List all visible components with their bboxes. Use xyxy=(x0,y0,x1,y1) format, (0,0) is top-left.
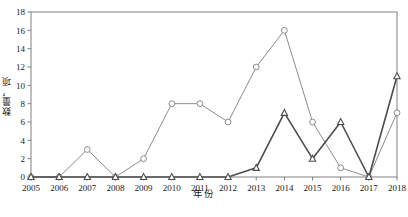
data-point-circle xyxy=(84,147,90,153)
y-tick-label: 2 xyxy=(21,154,26,164)
y-tick-label: 12 xyxy=(16,62,25,72)
data-point-circle xyxy=(169,101,175,107)
y-tick-label: 6 xyxy=(21,117,26,127)
y-tick-label: 0 xyxy=(21,172,26,182)
y-tick-label: 10 xyxy=(16,81,26,91)
y-tick-label: 18 xyxy=(16,7,26,17)
y-tick-label: 8 xyxy=(21,99,26,109)
series-triangle xyxy=(28,73,400,180)
chart-plot-area: 0246810121416182005200620072008200920102… xyxy=(0,0,408,217)
y-axis-title: 数量，项 xyxy=(0,50,13,142)
data-point-circle xyxy=(281,27,287,33)
y-tick-label: 4 xyxy=(21,136,26,146)
series-circle xyxy=(28,27,400,179)
y-tick-label: 14 xyxy=(16,44,26,54)
chart-figure: 数量，项 02468101214161820052006200720082009… xyxy=(0,0,408,217)
series-line xyxy=(31,30,397,177)
data-point-circle xyxy=(253,64,259,70)
data-point-circle xyxy=(310,119,316,125)
y-tick-label: 16 xyxy=(16,26,26,36)
data-point-circle xyxy=(197,101,203,107)
data-point-triangle xyxy=(338,119,344,125)
data-point-triangle xyxy=(394,73,400,79)
data-point-circle xyxy=(141,156,147,162)
data-point-circle xyxy=(338,165,344,171)
series-line xyxy=(31,76,397,177)
data-point-triangle xyxy=(253,164,259,170)
data-point-circle xyxy=(225,119,231,125)
data-point-circle xyxy=(394,110,400,116)
x-axis-title: 年份 xyxy=(0,186,408,200)
data-point-triangle xyxy=(281,109,287,115)
